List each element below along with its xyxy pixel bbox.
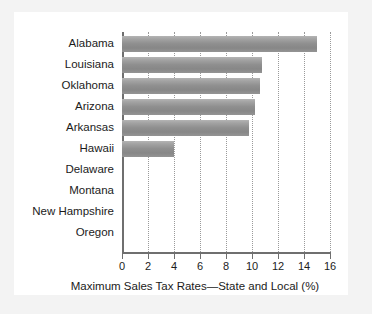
y-axis-label-delaware: Delaware [0, 160, 122, 179]
bar-row: Delaware [122, 160, 330, 181]
y-axis-label-louisiana: Louisiana [0, 55, 122, 74]
x-tick-14 [304, 254, 305, 259]
bar-row: Arizona [122, 97, 330, 118]
y-axis-label-arkansas: Arkansas [0, 118, 122, 137]
bar-arkansas [122, 120, 249, 136]
x-tick-label-16: 16 [315, 260, 345, 272]
plot-area: AlabamaLouisianaOklahomaArizonaArkansasH… [122, 34, 330, 252]
y-axis-label-oklahoma: Oklahoma [0, 76, 122, 95]
bar-row: Oregon [122, 223, 330, 244]
x-tick-8 [226, 254, 227, 259]
x-tick-6 [200, 254, 201, 259]
bar-hawaii [122, 141, 174, 157]
x-tick-10 [252, 254, 253, 259]
bar-oklahoma [122, 78, 260, 94]
bar-row: Oklahoma [122, 76, 330, 97]
y-axis-label-montana: Montana [0, 181, 122, 200]
x-tick-2 [148, 254, 149, 259]
bar-alabama [122, 36, 317, 52]
x-tick-0 [122, 254, 123, 259]
bar-row: Arkansas [122, 118, 330, 139]
gridline-16 [330, 32, 332, 252]
y-axis-label-hawaii: Hawaii [0, 139, 122, 158]
x-axis-title: Maximum Sales Tax Rates—State and Local … [28, 280, 362, 292]
bar-arizona [122, 99, 255, 115]
y-axis-label-arizona: Arizona [0, 97, 122, 116]
y-axis-label-new-hampshire: New Hampshire [0, 202, 122, 221]
x-tick-12 [278, 254, 279, 259]
bar-row: New Hampshire [122, 202, 330, 223]
bar-row: Montana [122, 181, 330, 202]
y-axis-label-oregon: Oregon [0, 223, 122, 242]
bar-row: Louisiana [122, 55, 330, 76]
x-tick-16 [330, 254, 331, 259]
chart-panel: 0246810121416 AlabamaLouisianaOklahomaAr… [14, 12, 348, 295]
x-tick-4 [174, 254, 175, 259]
bar-row: Alabama [122, 34, 330, 55]
bar-row: Hawaii [122, 139, 330, 160]
chart-figure: 0246810121416 AlabamaLouisianaOklahomaAr… [0, 0, 372, 314]
y-axis-label-alabama: Alabama [0, 34, 122, 53]
bar-louisiana [122, 57, 262, 73]
